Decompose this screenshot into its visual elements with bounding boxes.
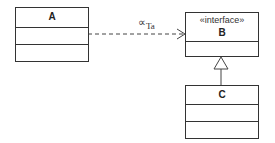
class-a-operations: [16, 44, 88, 45]
dependency-label: ∝Ta: [138, 16, 155, 31]
class-b-name: B: [186, 27, 258, 38]
class-c-attributes: [186, 104, 258, 105]
class-c-operations: [186, 121, 258, 122]
dependency-subscript: Ta: [146, 21, 155, 31]
generalization-triangle-icon: [214, 57, 228, 69]
class-c-name: C: [186, 89, 258, 100]
class-a[interactable]: A: [15, 7, 89, 62]
class-b-stereotype: «interface»: [186, 15, 258, 25]
class-b-operations: [186, 41, 258, 42]
class-b-interface[interactable]: «interface» B: [185, 12, 259, 57]
class-a-attributes: [16, 27, 88, 28]
proportional-symbol: ∝: [138, 16, 146, 28]
class-a-name: A: [16, 11, 88, 22]
class-c[interactable]: C: [185, 85, 259, 139]
